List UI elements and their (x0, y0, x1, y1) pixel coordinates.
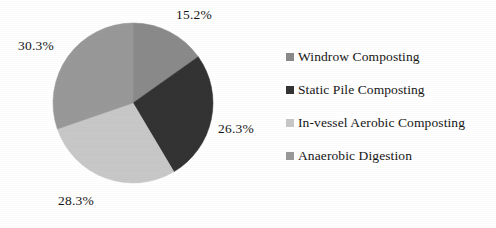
legend-label-anaerobic-digestion: Anaerobic Digestion (298, 148, 412, 164)
pie-chart-plot-area: 15.2% 30.3% 26.3% 28.3% (0, 0, 270, 228)
legend-item-anaerobic-digestion: Anaerobic Digestion (286, 139, 492, 172)
legend-item-windrow-composting: Windrow Composting (286, 40, 492, 73)
legend-label-windrow-composting: Windrow Composting (298, 49, 420, 65)
pie-chart-figure: 15.2% 30.3% 26.3% 28.3% Windrow Composti… (0, 0, 496, 228)
pie-data-label-static-pile-composting: 26.3% (218, 121, 254, 137)
pie-data-label-in-vessel-aerobic-composting: 28.3% (58, 193, 94, 209)
legend-swatch-icon-in-vessel-aerobic-composting (286, 119, 294, 127)
legend-swatch-icon-windrow-composting (286, 53, 294, 61)
chart-legend: Windrow Composting Static Pile Compostin… (286, 40, 492, 172)
pie-data-label-windrow-composting: 15.2% (176, 7, 212, 23)
legend-item-in-vessel-aerobic-composting: In-vessel Aerobic Composting (286, 106, 492, 139)
legend-label-in-vessel-aerobic-composting: In-vessel Aerobic Composting (298, 115, 465, 131)
pie-slice-group (53, 23, 213, 183)
pie-data-label-anaerobic-digestion: 30.3% (18, 38, 54, 54)
legend-swatch-icon-static-pile-composting (286, 86, 294, 94)
legend-label-static-pile-composting: Static Pile Composting (298, 82, 425, 98)
legend-item-static-pile-composting: Static Pile Composting (286, 73, 492, 106)
pie-chart-svg (0, 0, 270, 228)
legend-swatch-icon-anaerobic-digestion (286, 152, 294, 160)
